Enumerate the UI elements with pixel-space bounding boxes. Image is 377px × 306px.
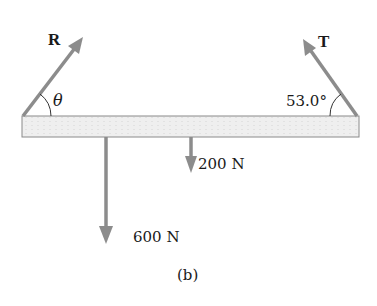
- beam: [22, 116, 359, 137]
- angle-arc-53: [330, 94, 341, 116]
- force-arrow-600n: [99, 137, 113, 244]
- angle-label-53: 53.0°: [286, 92, 327, 110]
- angle-arc-theta: [40, 94, 51, 116]
- force-label-600n: 600 N: [133, 228, 180, 246]
- angle-label-theta: θ: [53, 91, 63, 110]
- force-label-200n: 200 N: [198, 155, 245, 173]
- figure-caption: (b): [177, 266, 198, 284]
- force-label-t: T: [318, 32, 329, 52]
- force-arrow-200n: [185, 137, 197, 173]
- force-label-r: R: [48, 30, 60, 50]
